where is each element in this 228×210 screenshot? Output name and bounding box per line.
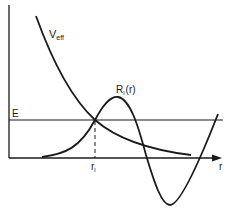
energy-label: E [12, 108, 19, 119]
wavefunction-label: Rl(r) [116, 84, 136, 96]
diagram-canvas: Veff Rl(r) E rl r [0, 0, 228, 210]
x-axis-label: r [219, 161, 223, 172]
radial-wavefunction-curve [42, 97, 218, 205]
veff-label: Veff [49, 28, 64, 41]
turning-point-label: rl [91, 161, 96, 173]
